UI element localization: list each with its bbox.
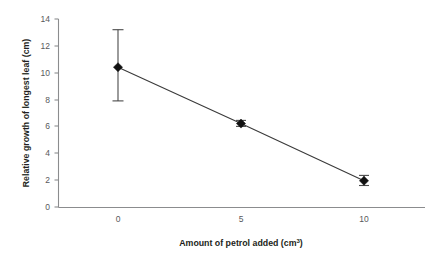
x-axis-title: Amount of petrol added (cm3) bbox=[179, 238, 303, 248]
scatter-line-chart: 14 12 10 8 6 4 2 0 0 5 10 bbox=[0, 0, 443, 255]
x-tick-label: 0 bbox=[116, 214, 121, 224]
y-axis-title: Relative growth of longest leaf (cm) bbox=[21, 39, 31, 188]
x-tick-label: 5 bbox=[239, 214, 244, 224]
y-tick-label: 14 bbox=[41, 14, 51, 24]
y-tick-label: 8 bbox=[45, 95, 50, 105]
y-tick-label: 2 bbox=[45, 175, 50, 185]
y-tick-label: 12 bbox=[41, 41, 51, 51]
chart-screenshot: 14 12 10 8 6 4 2 0 0 5 10 bbox=[0, 0, 443, 255]
chart-background bbox=[0, 0, 443, 255]
y-tick-label: 6 bbox=[45, 121, 50, 131]
x-axis-title-base: Amount of petrol added (cm bbox=[179, 238, 296, 248]
y-tick-label: 4 bbox=[45, 148, 50, 158]
y-tick-label: 10 bbox=[41, 68, 51, 78]
x-tick-label: 10 bbox=[359, 214, 369, 224]
y-tick-label: 0 bbox=[45, 202, 50, 212]
x-axis-title-close: ) bbox=[300, 238, 303, 248]
